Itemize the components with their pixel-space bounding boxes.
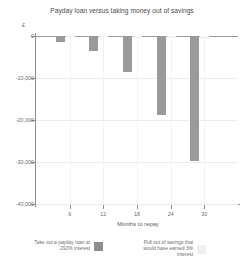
plot-area [36,36,238,204]
legend-item[interactable]: Pull out of savings that would have earn… [131,240,206,258]
bar [123,36,132,72]
chart-legend: Take out a payday loan at 292% interestP… [0,240,244,266]
x-axis-tick-label: 12 [91,211,115,217]
bar [157,36,166,115]
bar [56,36,65,42]
x-axis-tick [103,205,104,209]
y-axis-tick-label: -10,000 [0,75,34,81]
vertical-gridline [171,36,172,204]
bar [200,36,209,39]
y-axis-tick-label: -30,000 [0,159,34,165]
chart-title: Payday loan versus taking money out of s… [0,6,244,15]
bar [190,36,199,161]
y-axis-tick-label: -20,000 [0,117,34,123]
vertical-gridline [103,36,104,204]
legend-swatch [197,245,206,254]
bar [167,36,176,38]
bar [99,36,108,37]
vertical-gridline [70,36,71,204]
x-axis-tick-label: 18 [125,211,149,217]
bar [133,36,142,38]
x-axis-tick-label: 30 [192,211,216,217]
y-axis-tick-label: 0 [0,33,34,39]
x-axis-tick-label: 6 [58,211,82,217]
x-axis-tick-label: 24 [159,211,183,217]
chart-container: Payday loan versus taking money out of s… [0,0,244,270]
x-axis-title: Months to repay [36,221,240,227]
x-axis-tick [137,205,138,209]
legend-swatch [94,242,103,251]
legend-item[interactable]: Take out a payday loan at 292% interest [28,240,103,252]
legend-label: Take out a payday loan at 292% interest [28,240,90,252]
x-axis-tick [204,205,205,209]
y-axis-tick-label: -40,000 [0,201,34,207]
x-axis-tick [171,205,172,209]
bar [66,36,75,37]
x-axis-tick [70,205,71,209]
legend-label: Pull out of savings that would have earn… [131,240,193,258]
vertical-gridline [204,36,205,204]
vertical-gridline [137,36,138,204]
y-axis-unit-label: £ [22,22,25,28]
bar [89,36,98,51]
gridline [36,204,238,205]
